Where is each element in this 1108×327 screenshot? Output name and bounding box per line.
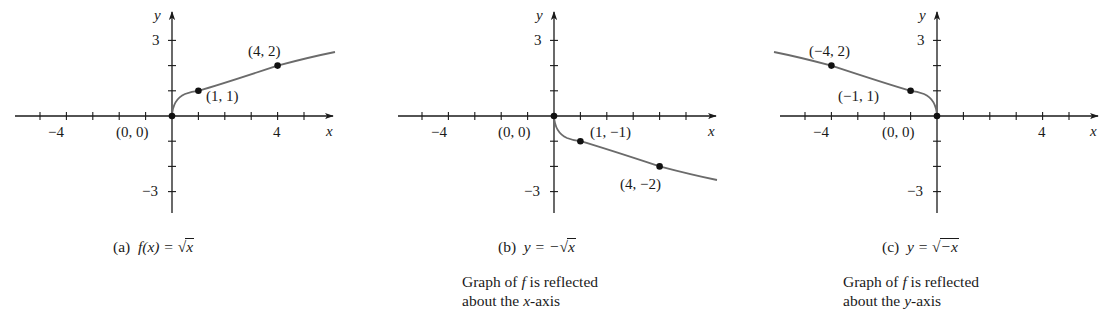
point-label-4-2: (4, 2) bbox=[248, 43, 281, 60]
point-1-neg1 bbox=[577, 138, 584, 145]
y-axis-label: y bbox=[534, 7, 543, 23]
note-text: is reflected bbox=[526, 273, 598, 290]
caption-c: (c) y = √−x bbox=[882, 238, 959, 256]
point-origin bbox=[169, 113, 176, 120]
neg-sqrt-curve bbox=[554, 116, 717, 180]
y-tick-label-3: 3 bbox=[917, 32, 925, 48]
caption-b: (b) y = −√x bbox=[498, 238, 576, 256]
x-axis-label: x bbox=[325, 123, 333, 139]
y-tick-label-neg3: −3 bbox=[524, 183, 540, 199]
x-tick-label-neg4: −4 bbox=[48, 124, 64, 140]
caption-c-lhs: y = bbox=[907, 238, 932, 255]
x-axis-label: x bbox=[707, 123, 715, 139]
point-label-neg1-1: (−1, 1) bbox=[838, 88, 879, 105]
sqrt-curve bbox=[172, 52, 335, 116]
graph-a: y x 3 −3 −4 4 (0, 0) (1, 1) (4, 2) bbox=[15, 7, 335, 213]
x-tick-label-4: 4 bbox=[1038, 124, 1046, 140]
point-neg1-1 bbox=[907, 88, 914, 95]
y-axis-label: y bbox=[917, 7, 926, 23]
y-tick-label-3: 3 bbox=[152, 32, 160, 48]
note-text: is reflected bbox=[907, 273, 979, 290]
caption-c-radicand: −x bbox=[941, 238, 958, 255]
point-4-neg2 bbox=[656, 163, 663, 170]
point-label-origin: (0, 0) bbox=[116, 124, 149, 141]
point-label-origin: (0, 0) bbox=[882, 124, 915, 141]
graph-c: y x 3 −3 −4 4 (0, 0) (−1, 1) (−4, 2) bbox=[774, 7, 1098, 213]
point-label-1-1: (1, 1) bbox=[206, 88, 239, 105]
point-label-4-neg2: (4, −2) bbox=[620, 176, 661, 193]
x-tick-label-4: 4 bbox=[273, 124, 281, 140]
caption-a: (a) f(x) = √x bbox=[113, 238, 194, 256]
sqrt-neg-x-curve bbox=[774, 52, 937, 116]
caption-b-note: Graph of f is reflected about the x-axis bbox=[462, 272, 598, 310]
caption-a-label: (a) bbox=[113, 238, 130, 255]
caption-a-radicand: x bbox=[186, 238, 193, 255]
note-text: about the bbox=[462, 292, 523, 309]
point-label-1-neg1: (1, −1) bbox=[590, 124, 631, 141]
point-neg4-2 bbox=[828, 62, 835, 69]
note-text: -axis bbox=[530, 292, 560, 309]
caption-c-label: (c) bbox=[882, 238, 899, 255]
note-var: x bbox=[523, 292, 530, 309]
graph-b: y x 3 −3 −4 (0, 0) (1, −1) (4, −2) bbox=[398, 7, 717, 213]
point-origin bbox=[551, 113, 558, 120]
y-axis-label: y bbox=[152, 7, 161, 23]
note-text: -axis bbox=[911, 292, 941, 309]
point-label-neg4-2: (−4, 2) bbox=[809, 43, 850, 60]
y-tick-label-neg3: −3 bbox=[142, 183, 158, 199]
point-origin bbox=[934, 113, 941, 120]
x-tick-label-neg4: −4 bbox=[431, 124, 447, 140]
note-var: y bbox=[904, 292, 911, 309]
x-tick-label-neg4: −4 bbox=[813, 124, 829, 140]
point-4-2 bbox=[274, 62, 281, 69]
note-text: Graph of bbox=[843, 273, 902, 290]
note-text: about the bbox=[843, 292, 904, 309]
caption-b-lhs: y = − bbox=[524, 238, 560, 255]
y-tick-label-3: 3 bbox=[534, 32, 542, 48]
caption-b-label: (b) bbox=[498, 238, 516, 255]
x-axis-label: x bbox=[1089, 123, 1097, 139]
note-text: Graph of bbox=[462, 273, 521, 290]
caption-b-radicand: x bbox=[568, 238, 575, 255]
caption-a-lhs: f(x) = bbox=[138, 238, 178, 255]
point-1-1 bbox=[195, 88, 202, 95]
y-tick-label-neg3: −3 bbox=[907, 183, 923, 199]
caption-c-note: Graph of f is reflected about the y-axis bbox=[843, 272, 979, 310]
point-label-origin: (0, 0) bbox=[498, 124, 531, 141]
